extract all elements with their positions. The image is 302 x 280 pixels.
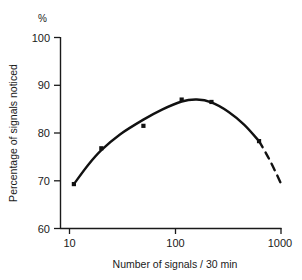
data-point-group [72,97,261,186]
y-tick-label-60: 60 [38,223,50,235]
y-axis-title: Percentage of signals noticed [7,64,19,202]
y-axis-ticks [54,38,60,229]
x-tick-label-100: 100 [166,237,184,249]
y-tick-label-80: 80 [38,127,50,139]
y-unit-label: % [38,13,47,24]
fitted-curve-path [74,100,259,185]
plot-data-layer [72,97,281,186]
y-tick-label-90: 90 [38,79,50,91]
chart-svg: % 100 90 80 70 60 10 100 1000 [0,0,302,280]
x-tick-label-1000: 1000 [268,237,292,249]
y-tick-label-100: 100 [32,32,50,44]
data-point-marker [141,124,145,128]
x-tick-label-10: 10 [63,237,75,249]
extrapolated-curve-path [259,141,281,183]
chart-figure: % 100 90 80 70 60 10 100 1000 [0,0,302,280]
y-tick-label-70: 70 [38,175,50,187]
x-axis-title: Number of signals / 30 min [113,258,238,270]
